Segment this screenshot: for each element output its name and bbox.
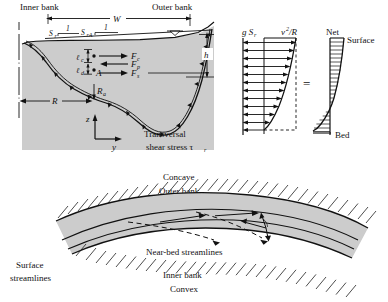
force-c-sub: c: [137, 56, 140, 62]
equals-sign: =: [303, 76, 310, 91]
arrow-row: [243, 48, 295, 52]
slope-ratio-2: 1: [104, 23, 108, 32]
concave-label: Concave: [163, 172, 195, 182]
outer-bank-label: Outer bank: [152, 2, 193, 12]
surface-streamlines-label-line1: Surface: [16, 260, 43, 270]
arrow-row: [243, 40, 297, 44]
axis-z-label: z: [85, 114, 90, 124]
radius-label: R: [51, 96, 58, 106]
svg-text:Transversal: Transversal: [144, 129, 186, 139]
centerline-axis: [18, 22, 19, 118]
radius-a-sub: a: [103, 91, 106, 97]
bed-label: Bed: [335, 130, 350, 140]
net-label: Net: [326, 27, 339, 37]
arrow-row: [243, 96, 283, 100]
net-profile: [313, 38, 344, 135]
arrow-row: [243, 64, 291, 68]
svg-text:/R: /R: [288, 27, 298, 37]
svg-text:r: r: [254, 32, 257, 38]
net-profile-curve: [313, 38, 344, 131]
arrow-row: [243, 104, 280, 108]
slope-sra-label: S: [81, 28, 85, 37]
slope-ratio-1: 1: [66, 24, 70, 33]
depth-label: h: [204, 50, 209, 60]
force-p-sub: p: [136, 64, 140, 70]
plan-view-panel: Concave Outer bank: [10, 172, 376, 297]
slope-sr-label: S: [49, 29, 53, 38]
length-c-sub: c: [81, 57, 84, 63]
force-s-label: F: [130, 68, 137, 78]
arrow-row: [243, 72, 289, 76]
arrow-row: [243, 128, 265, 132]
centrifugal-profile-curve: [264, 38, 296, 130]
plan-inner-bank-label: Inner bank: [163, 270, 202, 280]
inner-bank-label: Inner bank: [20, 2, 59, 12]
gravity-term-label: g S r: [242, 27, 257, 38]
near-bed-streamlines-label: Near-bed streamlines: [146, 247, 223, 257]
slope-sra-sub: rA: [87, 32, 93, 38]
centrifugal-term-label: v 2 /R: [281, 26, 298, 37]
arrow-row: [243, 56, 293, 60]
arrow-row: [243, 112, 276, 116]
svg-text:g S: g S: [242, 27, 254, 37]
net-hatch-positive: [330, 42, 344, 106]
velocity-arrow-rows: [243, 40, 297, 132]
cross-section-panel: W Inner bank Outer bank S r 1 S rA 1: [18, 2, 214, 153]
velocity-profile-panel: g S r v 2 /R: [242, 26, 374, 140]
svg-text:v: v: [281, 27, 285, 37]
arrow-row: [243, 120, 271, 124]
radius-a-label: R: [96, 86, 103, 96]
svg-text:shear stress τ: shear stress τ: [146, 142, 193, 152]
river-bend-hydraulics-figure: W Inner bank Outer bank S r 1 S rA 1: [0, 0, 388, 302]
surface-label: Surface: [347, 35, 374, 45]
point-upper: [92, 54, 95, 57]
convex-label: Convex: [170, 284, 198, 294]
surface-streamlines-label-line2: streamlines: [10, 273, 51, 283]
axis-y-label: y: [111, 142, 116, 152]
